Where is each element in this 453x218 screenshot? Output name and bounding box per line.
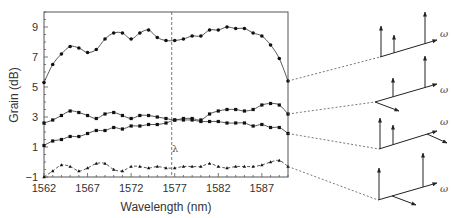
connector-line <box>288 167 378 201</box>
transverse-axis-arrow <box>427 134 447 143</box>
omega-label: ω <box>440 116 448 127</box>
transverse-axis-arrow <box>392 196 416 205</box>
y-tick-label: 1 <box>32 141 38 153</box>
y-axis: −113579 <box>25 12 48 183</box>
omega-label: ω <box>440 28 448 39</box>
gain-chart-figure: −113579 156215671572157715821587 Grain (… <box>0 0 453 218</box>
y-axis-title: Grain (dB) <box>7 67 21 122</box>
connector-line <box>288 102 375 114</box>
spectrum-diagram-4: ω <box>378 153 448 205</box>
spectrum-diagram-1: ω <box>380 12 448 57</box>
spectrum-diagram-3: ω <box>379 116 448 149</box>
omega-label: ω <box>440 183 448 194</box>
omega-axis-arrow <box>378 183 437 200</box>
lambda-annotation: λ <box>172 143 179 154</box>
x-axis-title: Wavelength (nm) <box>121 200 212 214</box>
x-axis: 156215671572157715821587 <box>32 173 288 194</box>
omega-axis-arrow <box>375 84 437 102</box>
x-tick-label: 1567 <box>75 182 99 194</box>
connector-lines <box>288 57 380 200</box>
y-tick-label: 9 <box>32 21 38 33</box>
series-curve-3 <box>42 118 289 147</box>
connector-line <box>288 57 380 81</box>
plot-frame <box>44 12 288 177</box>
x-tick-label: 1587 <box>250 182 274 194</box>
series-curve-1 <box>42 25 290 84</box>
data-series <box>42 25 290 178</box>
x-tick-label: 1572 <box>119 182 143 194</box>
omega-label: ω <box>440 84 448 95</box>
x-tick-label: 1562 <box>32 182 56 194</box>
series-curve-2 <box>42 102 289 125</box>
omega-axis-arrow <box>380 40 437 57</box>
spectrum-diagrams: ωωωω <box>375 12 448 205</box>
x-tick-label: 1582 <box>206 182 230 194</box>
omega-axis-arrow <box>379 131 437 149</box>
connector-line <box>288 134 379 150</box>
y-tick-label: 7 <box>32 51 38 63</box>
transverse-axis-arrow <box>375 102 399 111</box>
y-tick-label: 5 <box>32 81 38 93</box>
y-tick-label: 3 <box>32 111 38 123</box>
spectrum-diagram-2: ω <box>375 56 448 111</box>
x-tick-label: 1577 <box>162 182 186 194</box>
